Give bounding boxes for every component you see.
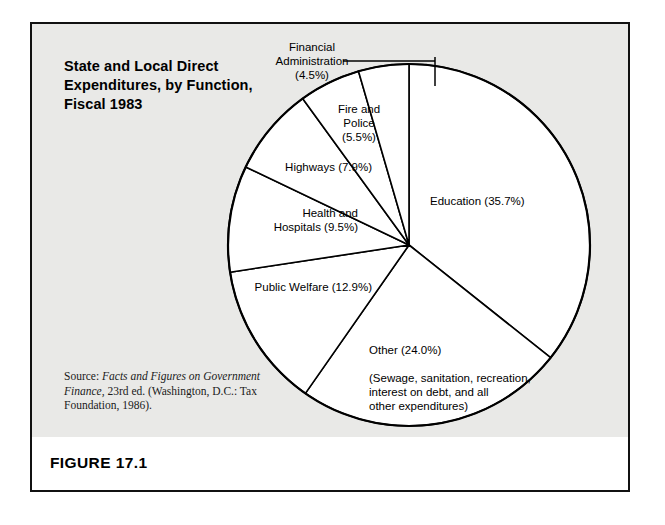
figure-footer: FIGURE 17.1: [32, 437, 628, 490]
pie-label-fire-and-police: Fire and Police (5.5%): [320, 102, 398, 144]
pie-label-other-detail: (Sewage, sanitation, recreation, interes…: [369, 372, 531, 412]
pie-label-education: Education (35.7%): [430, 194, 570, 208]
figure-number-label: FIGURE 17.1: [50, 454, 147, 472]
pie-label-highways: Highways (7.9%): [252, 160, 372, 174]
pie-slice-group: [228, 64, 590, 426]
pie-slice-health-and-hospitals: [228, 167, 409, 272]
pie-slice-highways: [246, 99, 409, 245]
pie-slice-other: [305, 245, 550, 426]
source-note: Source: Facts and Figures on Government …: [64, 369, 274, 413]
pie-slice-fire-and-police: [303, 71, 409, 245]
pie-slice-financial-administration: [359, 64, 410, 245]
pie-label-other: Other (24.0%) (Sewage, sanitation, recre…: [369, 329, 584, 413]
source-prefix: Source:: [64, 370, 102, 382]
pie-slice-education: [409, 64, 590, 358]
figure-page: State and Local Direct Expenditures, by …: [0, 0, 665, 525]
pie-outline: [228, 64, 590, 426]
figure-frame: State and Local Direct Expenditures, by …: [30, 22, 630, 492]
page-title: State and Local Direct Expenditures, by …: [64, 57, 279, 114]
pie-label-health-and-hospitals: Health and Hospitals (9.5%): [228, 206, 358, 234]
figure-body: State and Local Direct Expenditures, by …: [32, 24, 628, 436]
pie-label-other-main: Other (24.0%): [369, 344, 441, 356]
pie-label-public-welfare: Public Welfare (12.9%): [222, 280, 372, 294]
